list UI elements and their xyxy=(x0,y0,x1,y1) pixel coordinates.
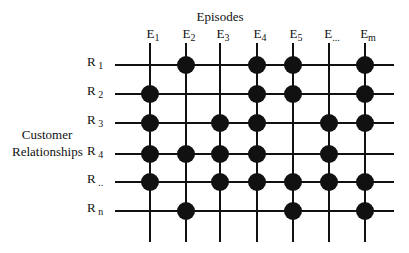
row-label-relationship: R n xyxy=(87,201,103,214)
membership-dot xyxy=(284,85,302,103)
row-label-base: R xyxy=(87,143,96,158)
row-label-base: R xyxy=(87,54,96,69)
row-label-relationship: R .. xyxy=(87,172,103,185)
row-axis-title-line1: Customer xyxy=(12,126,82,143)
membership-dot xyxy=(211,145,229,163)
row-label-subscript: 1 xyxy=(96,60,104,71)
row-axis-title: Customer Relationships xyxy=(12,126,82,160)
membership-dot xyxy=(177,202,195,220)
column-label-base: E xyxy=(360,26,368,41)
column-label-base: E xyxy=(254,26,262,41)
column-label-subscript: m xyxy=(368,32,376,43)
episodes-relationship-grid-diagram: Episodes Customer Relationships E1E2E3E4… xyxy=(0,0,409,253)
column-label-base: E xyxy=(147,26,155,41)
membership-dot xyxy=(177,145,195,163)
membership-dot xyxy=(177,56,195,74)
column-label-episode: Em xyxy=(360,27,376,40)
row-label-relationship: R 1 xyxy=(87,55,103,68)
membership-dot xyxy=(320,145,338,163)
row-label-base: R xyxy=(87,83,96,98)
membership-dot xyxy=(320,173,338,191)
row-label-relationship: R 3 xyxy=(87,113,103,126)
row-label-base: R xyxy=(87,200,96,215)
membership-dot xyxy=(356,56,374,74)
column-label-episode: E2 xyxy=(183,27,196,40)
column-label-base: E xyxy=(217,26,225,41)
row-label-relationship: R 2 xyxy=(87,84,103,97)
diagram-title: Episodes xyxy=(197,10,244,23)
membership-dot xyxy=(284,202,302,220)
row-label-subscript: n xyxy=(96,206,104,217)
column-label-subscript: 3 xyxy=(224,32,229,43)
column-label-episode: E5 xyxy=(290,27,303,40)
membership-dot xyxy=(356,85,374,103)
column-label-episode: E1 xyxy=(147,27,160,40)
row-label-base: R xyxy=(87,171,96,186)
membership-dot xyxy=(248,173,266,191)
membership-dot xyxy=(356,173,374,191)
row-label-relationship: R 4 xyxy=(87,144,103,157)
column-label-base: E xyxy=(290,26,298,41)
membership-dot xyxy=(248,114,266,132)
row-axis-title-line2: Relationships xyxy=(12,143,82,160)
column-label-episode: E4 xyxy=(254,27,267,40)
membership-dot xyxy=(356,114,374,132)
membership-dot xyxy=(248,145,266,163)
column-label-episode: E... xyxy=(324,27,339,40)
membership-dot xyxy=(320,114,338,132)
membership-dot xyxy=(141,173,159,191)
membership-dot xyxy=(141,145,159,163)
column-label-base: E xyxy=(324,26,332,41)
membership-dot xyxy=(141,85,159,103)
column-label-subscript: 4 xyxy=(261,32,266,43)
row-label-subscript: .. xyxy=(96,177,104,188)
column-label-subscript: 1 xyxy=(154,32,159,43)
row-label-subscript: 4 xyxy=(96,149,104,160)
membership-dot xyxy=(211,114,229,132)
row-label-subscript: 2 xyxy=(96,89,104,100)
membership-dot xyxy=(356,202,374,220)
membership-dot xyxy=(284,56,302,74)
column-label-subscript: 5 xyxy=(297,32,302,43)
membership-dot xyxy=(248,85,266,103)
membership-dot xyxy=(211,173,229,191)
membership-dot xyxy=(248,56,266,74)
column-label-subscript: ... xyxy=(332,32,340,43)
row-label-base: R xyxy=(87,112,96,127)
column-label-episode: E3 xyxy=(217,27,230,40)
column-label-subscript: 2 xyxy=(190,32,195,43)
membership-dot xyxy=(141,114,159,132)
row-label-subscript: 3 xyxy=(96,118,104,129)
membership-dot xyxy=(284,173,302,191)
column-label-base: E xyxy=(183,26,191,41)
